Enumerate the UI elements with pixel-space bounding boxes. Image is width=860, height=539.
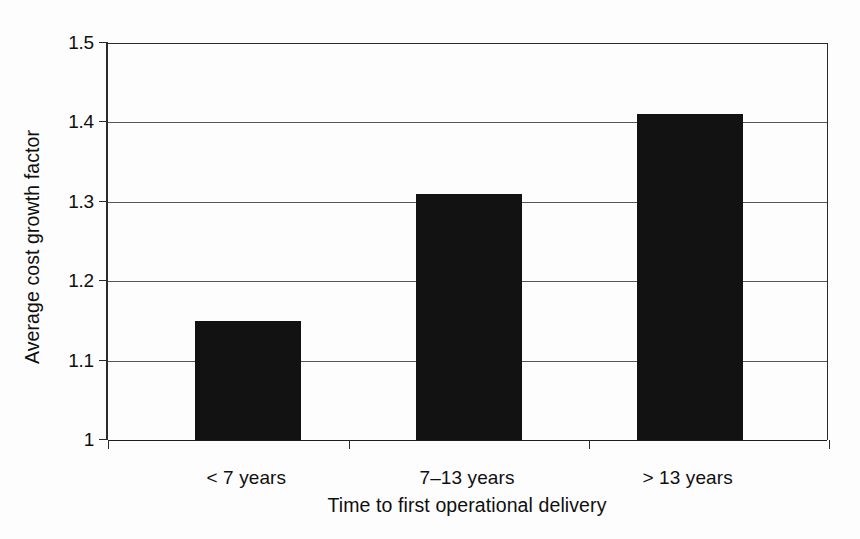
y-axis-tick-label: 1 [84,429,94,451]
y-axis-tick-label: 1.3 [68,191,94,213]
y-axis-title: Average cost growth factor [15,47,49,447]
x-axis-category-label: > 13 years [643,467,733,489]
bar [416,194,522,440]
x-axis-tick [108,440,109,449]
y-axis-tick [99,201,108,202]
bar [195,321,301,440]
y-axis-tick [99,42,108,43]
y-axis-tick-label: 1.5 [68,32,94,54]
y-axis-tick-label: 1.2 [68,270,94,292]
y-axis-tick-label: 1.1 [68,350,94,372]
x-axis-category-label: < 7 years [207,467,287,489]
plot-area: 1.51.41.31.21.11 [106,43,828,440]
y-axis-tick [99,439,108,440]
x-axis-tick [589,440,590,449]
bar [637,114,743,440]
gridline [108,440,827,441]
y-axis-tick [99,280,108,281]
y-axis-tick [99,360,108,361]
x-axis-tick [349,440,350,449]
y-axis-tick-label: 1.4 [68,111,94,133]
gridline [108,43,827,44]
chart-figure: Average cost growth factor 1.51.41.31.21… [0,0,860,539]
x-axis-title: Time to first operational delivery [106,494,828,517]
x-axis-tick [829,440,830,449]
x-axis-category-label: 7–13 years [419,467,514,489]
y-axis-tick [99,121,108,122]
